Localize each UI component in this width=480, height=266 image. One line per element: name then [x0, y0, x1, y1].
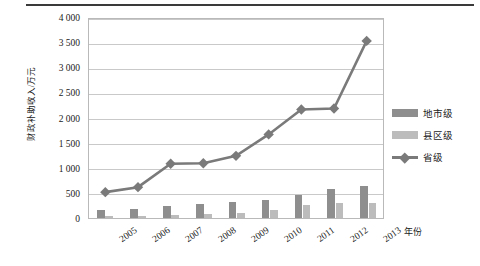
legend-swatch-icon — [392, 109, 418, 117]
x-axis-tick-label: 2008 — [217, 225, 238, 244]
legend-item[interactable]: 县区级 — [392, 124, 478, 146]
legend-item-label: 县区级 — [423, 128, 453, 142]
chart-figure: 财政补助收入/万元 05001 0001 5002 0002 5003 0003… — [0, 0, 480, 266]
y-axis-tick-label: 1 500 — [59, 139, 80, 149]
y-axis-tick-label: 3 500 — [59, 38, 80, 48]
document-top-rule — [26, 4, 474, 6]
y-axis-tick-label: 2 500 — [59, 88, 80, 98]
y-axis-tick-label: 4 000 — [59, 13, 80, 23]
diamond-marker — [100, 187, 110, 197]
x-axis-tick-label: 2012 — [348, 225, 369, 244]
legend-item[interactable]: 省级 — [392, 146, 478, 168]
legend-swatch-icon — [392, 131, 418, 139]
x-axis-tick-label: 2007 — [184, 225, 205, 244]
x-axis-tick-label: 2005 — [118, 225, 139, 244]
x-axis-tick-label: 2011 — [315, 225, 336, 244]
legend-item-label: 地市级 — [423, 106, 453, 120]
y-axis-tick-label: 2 000 — [59, 114, 80, 124]
y-axis-tick-label: 3 000 — [59, 63, 80, 73]
x-axis-tick-label: 2006 — [151, 225, 172, 244]
legend-swatch-icon — [392, 152, 418, 162]
diamond-marker — [361, 36, 371, 46]
x-axis-title: 年份 — [404, 225, 422, 238]
line-series-layer — [89, 19, 383, 218]
diamond-marker — [198, 158, 208, 168]
plot-area — [88, 18, 384, 219]
x-axis-tick-label: 2013 — [381, 225, 402, 244]
y-axis-tick-label: 1 000 — [59, 164, 80, 174]
legend-item-label: 省级 — [423, 150, 443, 164]
x-axis-tick-label: 2010 — [282, 225, 303, 244]
y-axis-tick-labels: 05001 0001 5002 0002 5003 0003 5004 000 — [28, 0, 84, 266]
y-axis-tick-label: 500 — [66, 189, 80, 199]
chart-legend: 地市级县区级省级 — [392, 102, 478, 168]
x-axis-tick-labels: 200520062007200820092010201120122013 — [88, 219, 384, 259]
y-axis-tick-label: 0 — [75, 214, 80, 224]
line-path — [105, 41, 366, 192]
diamond-marker — [329, 103, 339, 113]
x-axis-tick-label: 2009 — [249, 225, 270, 244]
line-series-svg — [89, 19, 383, 218]
legend-item[interactable]: 地市级 — [392, 102, 478, 124]
